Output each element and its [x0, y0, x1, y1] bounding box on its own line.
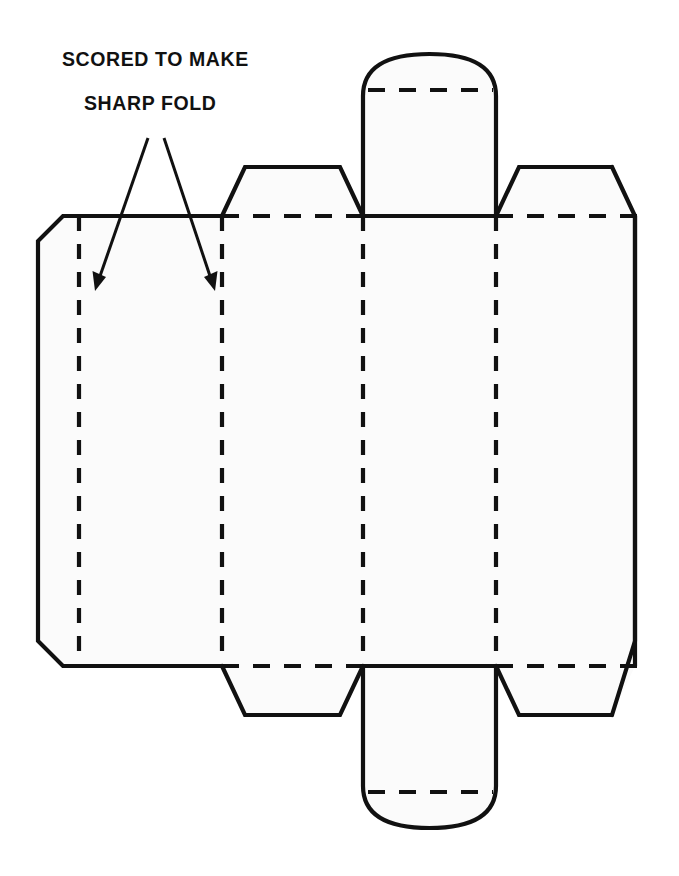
- bottom-tab-fill: [363, 666, 496, 828]
- top-tab-fill: [363, 54, 496, 216]
- callout-text-group: SCORED TO MAKE SHARP FOLD: [62, 48, 249, 114]
- diagram-page: SCORED TO MAKE SHARP FOLD: [0, 0, 679, 876]
- main-body-fill: [38, 216, 635, 666]
- panel-fills: [38, 54, 635, 828]
- callout-line-1: SCORED TO MAKE: [62, 48, 249, 70]
- callout-line-2: SHARP FOLD: [84, 92, 216, 114]
- carton-blank-diagram: SCORED TO MAKE SHARP FOLD: [0, 0, 679, 876]
